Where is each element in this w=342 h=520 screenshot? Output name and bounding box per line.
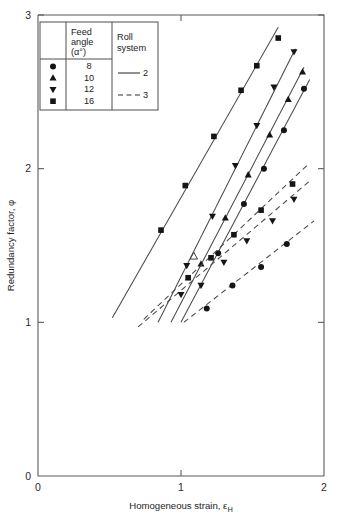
data-point-circle (258, 264, 264, 270)
series-2 (171, 67, 306, 322)
data-point-square (158, 227, 164, 233)
data-point-square (50, 98, 56, 104)
data-point-triangle-down (220, 260, 227, 266)
series-5 (138, 181, 310, 327)
data-point-square (258, 207, 264, 213)
legend-feed-angle-8: 8 (86, 61, 91, 71)
data-point-square (231, 232, 237, 238)
chart-legend: Feedangle(α°)Rollsystem810121623 (40, 22, 158, 110)
data-point-square (238, 87, 244, 93)
data-point-circle (284, 241, 290, 247)
data-point-triangle-down (243, 238, 250, 244)
legend-symbol-square (50, 98, 56, 104)
data-point-circle (281, 127, 287, 133)
series-1 (158, 49, 297, 323)
y-axis-title: Redundancy factor, φ (5, 200, 16, 292)
data-point-square (211, 134, 217, 140)
legend-symbol-circle (50, 63, 56, 69)
legend-feed-angle-10: 10 (84, 73, 94, 83)
axis-labels-layer: Homogeneous strain, εHRedundancy factor,… (5, 200, 233, 514)
legend-feed-angle-16: 16 (84, 96, 94, 106)
data-point-circle (301, 86, 307, 92)
data-point-square (182, 183, 188, 189)
y-tick-label-0: 0 (25, 470, 31, 482)
data-point-triangle-up (222, 214, 229, 220)
data-point-square (275, 35, 281, 41)
legend-roll-system-3: 3 (143, 90, 148, 100)
data-point-triangle-down (183, 263, 190, 269)
x-axis-title: Homogeneous strain, εH (129, 500, 232, 514)
data-point-circle (229, 282, 235, 288)
data-point-triangle-down (290, 49, 297, 55)
trend-line-dashed (138, 181, 310, 327)
data-point-circle (241, 201, 247, 207)
legend-box (40, 22, 158, 110)
legend-header-feed-angle-3: (α°) (71, 47, 86, 57)
legend-feed-angle-12: 12 (84, 84, 94, 94)
chart-svg: 0123012 Feedangle(α°)Rollsystem810121623… (0, 0, 342, 520)
x-tick-label-2: 2 (321, 481, 327, 493)
data-point-circle (204, 306, 210, 312)
data-point-square (185, 275, 191, 281)
x-tick-label-1: 1 (178, 481, 184, 493)
legend-header-feed-angle-2: angle (71, 37, 93, 47)
data-point-circle (261, 166, 267, 172)
figure-container: 0123012 Feedangle(α°)Rollsystem810121623… (0, 0, 342, 520)
data-point-circle (50, 63, 56, 69)
data-point-square (290, 181, 296, 187)
data-point-square (254, 63, 260, 69)
data-point-triangle-down (253, 123, 260, 129)
data-point-triangle-down (290, 197, 297, 203)
data-point-triangle-up (299, 68, 306, 74)
data-point-triangle-up (245, 171, 252, 177)
trend-line-solid (171, 67, 304, 322)
data-point-triangle-down (269, 218, 276, 224)
y-tick-label-3: 3 (25, 9, 31, 21)
data-point-square (208, 255, 214, 261)
data-point-triangle-up (285, 96, 292, 102)
legend-header-feed-angle-1: Feed (71, 27, 92, 37)
trend-line-solid (158, 49, 295, 323)
x-tick-label-0: 0 (35, 481, 41, 493)
legend-header-roll-system-1: Roll (117, 32, 133, 42)
legend-roll-system-2: 2 (143, 68, 148, 78)
legend-header-roll-system-2: system (117, 43, 146, 53)
y-tick-label-1: 1 (25, 316, 31, 328)
data-point-triangle-up (266, 131, 273, 137)
data-point-triangle-down (232, 163, 239, 169)
y-tick-label-2: 2 (25, 162, 31, 174)
series-points-0 (158, 35, 281, 233)
